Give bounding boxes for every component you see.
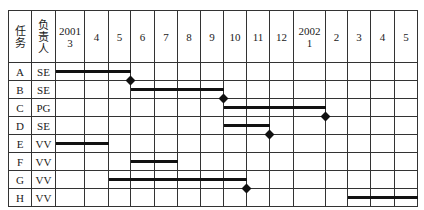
timeline-cell xyxy=(247,99,270,117)
header-month: 12 xyxy=(270,11,294,63)
timeline-cell xyxy=(178,189,201,207)
timeline-cell xyxy=(85,189,109,207)
timeline-cell xyxy=(178,99,201,117)
timeline-cell xyxy=(294,135,326,153)
timeline-cell xyxy=(56,81,85,99)
timeline-cell xyxy=(247,189,270,207)
timeline-cell xyxy=(201,81,224,99)
timeline-cell xyxy=(270,189,294,207)
table-row: FVV xyxy=(9,153,418,171)
timeline-cell xyxy=(56,63,85,81)
timeline-cell xyxy=(247,63,270,81)
header-month: 9 xyxy=(201,11,224,63)
timeline-cell xyxy=(131,81,155,99)
timeline-cell xyxy=(56,171,85,189)
owner-cell: VV xyxy=(32,189,56,207)
timeline-cell xyxy=(131,171,155,189)
timeline-cell xyxy=(371,189,395,207)
timeline-cell xyxy=(201,189,224,207)
timeline-cell xyxy=(85,81,109,99)
timeline-cell xyxy=(371,81,395,99)
task-id-cell: E xyxy=(9,135,32,153)
timeline-cell xyxy=(109,63,131,81)
timeline-cell xyxy=(131,63,155,81)
task-id-cell: C xyxy=(9,99,32,117)
timeline-cell xyxy=(294,99,326,117)
timeline-cell xyxy=(371,99,395,117)
timeline-cell xyxy=(56,99,85,117)
header-month: 2002 1 xyxy=(294,11,326,63)
timeline-cell xyxy=(395,99,418,117)
table-row: CPG xyxy=(9,99,418,117)
timeline-cell xyxy=(348,171,371,189)
timeline-cell xyxy=(371,117,395,135)
timeline-cell xyxy=(56,153,85,171)
timeline-cell xyxy=(270,99,294,117)
owner-cell: SE xyxy=(32,63,56,81)
timeline-cell xyxy=(326,189,348,207)
timeline-cell xyxy=(155,81,178,99)
timeline-cell xyxy=(109,189,131,207)
timeline-cell xyxy=(270,81,294,99)
owner-cell: SE xyxy=(32,81,56,99)
timeline-cell xyxy=(224,117,247,135)
timeline-cell xyxy=(109,135,131,153)
timeline-cell xyxy=(326,63,348,81)
timeline-cell xyxy=(109,171,131,189)
timeline-cell xyxy=(109,153,131,171)
timeline-cell xyxy=(348,117,371,135)
table-row: EVV xyxy=(9,135,418,153)
timeline-cell xyxy=(348,135,371,153)
timeline-cell xyxy=(56,189,85,207)
header-month: 6 xyxy=(131,11,155,63)
timeline-cell xyxy=(395,171,418,189)
owner-cell: PG xyxy=(32,99,56,117)
timeline-cell xyxy=(247,171,270,189)
task-id-cell: D xyxy=(9,117,32,135)
timeline-cell xyxy=(371,171,395,189)
timeline-cell xyxy=(224,99,247,117)
timeline-cell xyxy=(178,117,201,135)
task-id-cell: H xyxy=(9,189,32,207)
timeline-cell xyxy=(270,153,294,171)
table-row: DSE xyxy=(9,117,418,135)
timeline-cell xyxy=(56,117,85,135)
timeline-cell xyxy=(395,63,418,81)
timeline-cell xyxy=(326,99,348,117)
timeline-cell xyxy=(85,117,109,135)
timeline-cell xyxy=(247,135,270,153)
timeline-cell xyxy=(155,171,178,189)
timeline-cell xyxy=(201,135,224,153)
timeline-cell xyxy=(224,63,247,81)
header-month: 10 xyxy=(224,11,247,63)
timeline-cell xyxy=(85,135,109,153)
timeline-cell xyxy=(294,189,326,207)
timeline-cell xyxy=(85,63,109,81)
header-month: 7 xyxy=(155,11,178,63)
timeline-cell xyxy=(270,135,294,153)
timeline-cell xyxy=(85,99,109,117)
timeline-cell xyxy=(155,99,178,117)
header-row: 任务 负责人 2001 3 4 5 6 7 8 9 10 11 12 2002 … xyxy=(9,11,418,63)
timeline-cell xyxy=(224,153,247,171)
timeline-cell xyxy=(395,117,418,135)
timeline-cell xyxy=(294,117,326,135)
timeline-cell xyxy=(294,63,326,81)
header-month: 11 xyxy=(247,11,270,63)
timeline-cell xyxy=(395,189,418,207)
timeline-cell xyxy=(371,135,395,153)
table-row: ASE xyxy=(9,63,418,81)
timeline-cell xyxy=(348,99,371,117)
timeline-cell xyxy=(131,99,155,117)
timeline-cell xyxy=(326,135,348,153)
timeline-cell xyxy=(224,171,247,189)
gantt-chart: 任务 负责人 2001 3 4 5 6 7 8 9 10 11 12 2002 … xyxy=(8,10,418,207)
timeline-cell xyxy=(326,117,348,135)
timeline-cell xyxy=(371,63,395,81)
timeline-cell xyxy=(247,117,270,135)
timeline-cell xyxy=(224,135,247,153)
timeline-cell xyxy=(326,81,348,99)
timeline-cell xyxy=(109,81,131,99)
table-row: HVV xyxy=(9,189,418,207)
timeline-cell xyxy=(395,153,418,171)
